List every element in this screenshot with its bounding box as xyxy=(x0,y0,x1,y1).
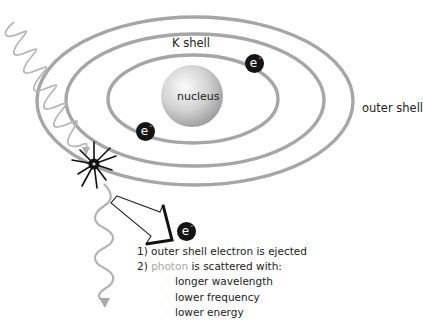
note-line-1: 1) outer shell electron is ejected xyxy=(137,244,307,259)
note-sub-energy: lower energy xyxy=(137,305,307,320)
electron-charge: - xyxy=(190,223,193,230)
note-sub-wavelength: longer wavelength xyxy=(137,274,307,289)
electron-charge: - xyxy=(258,55,261,62)
incoming-photon-arrowhead xyxy=(82,147,90,156)
scattered-photon-wave xyxy=(95,184,113,300)
explanation-notes: 1) outer shell electron is ejected 2) ph… xyxy=(137,244,307,320)
k-shell-electron-upper: e- xyxy=(245,54,264,73)
note-line-2-prefix: 2) xyxy=(137,260,151,272)
note-line-2-suffix: is scattered with: xyxy=(188,260,282,272)
scattered-photon-arrowhead xyxy=(99,298,110,308)
note-sub-frequency: lower frequency xyxy=(137,290,307,305)
electron-symbol: e xyxy=(182,224,189,238)
interaction-starburst-icon xyxy=(72,142,116,188)
electron-charge: - xyxy=(149,123,152,130)
k-shell-electron-lower: e- xyxy=(136,122,155,141)
nucleus-label: nucleus xyxy=(177,91,220,102)
ejection-arrow xyxy=(111,196,172,244)
electron-symbol: e xyxy=(141,124,148,138)
ejected-electron: e- xyxy=(177,222,196,241)
photon-word: photon xyxy=(151,260,188,272)
outer-shell-label: outer shell xyxy=(362,103,423,115)
electron-symbol: e xyxy=(250,56,257,70)
note-line-2: 2) photon is scattered with: xyxy=(137,259,307,274)
k-shell-label: K shell xyxy=(172,38,210,50)
